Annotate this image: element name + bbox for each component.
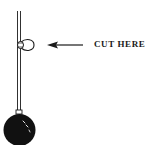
cut-here-diagram: CUT HERE bbox=[0, 0, 150, 145]
left-arrow-icon bbox=[47, 42, 83, 49]
ball-weight-icon bbox=[4, 110, 36, 145]
diagram-canvas bbox=[0, 0, 150, 145]
cut-here-label: CUT HERE bbox=[94, 39, 145, 49]
string-icon bbox=[18, 11, 21, 110]
loop-knot-icon bbox=[18, 40, 35, 51]
